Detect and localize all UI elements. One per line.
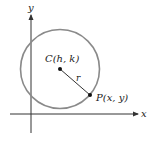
point-p <box>88 93 92 97</box>
x-axis-label: x <box>141 108 147 119</box>
radius-label: r <box>76 73 81 83</box>
y-axis-label: y <box>27 2 34 13</box>
circle-diagram: x y r C(h, k) P(x, y) <box>0 0 163 142</box>
center-point <box>58 67 62 71</box>
radius-line <box>60 69 90 95</box>
center-label: C(h, k) <box>45 53 79 64</box>
point-p-label: P(x, y) <box>95 92 128 103</box>
